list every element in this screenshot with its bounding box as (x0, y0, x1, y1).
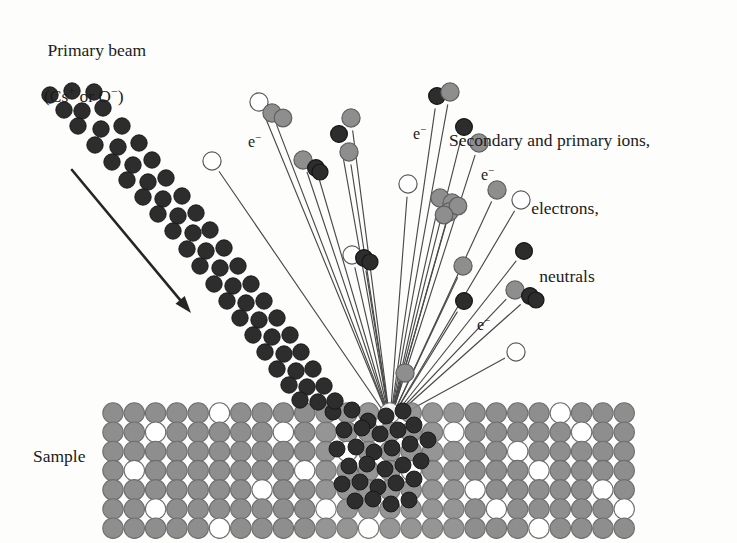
lattice-atom (593, 518, 613, 538)
implanted-beam-particle (402, 436, 418, 452)
o-charge-superscript: − (111, 84, 118, 98)
primary-beam-particle (188, 205, 204, 221)
lattice-atom (167, 518, 187, 538)
figure-canvas: Primary beam (Cs+ or O−) Secondary and p… (0, 0, 737, 543)
lattice-vacancy (273, 422, 293, 442)
lattice-atom (444, 403, 464, 423)
ejection-ray (366, 271, 390, 421)
ejected-primary-ion-particle (312, 164, 328, 180)
primary-beam-arrow-group (72, 170, 191, 313)
primary-beam-particle (206, 276, 222, 292)
primary-beam-particle (251, 312, 267, 328)
lattice-atom (273, 499, 293, 519)
lattice-atom (209, 499, 229, 519)
ejected-secondary-ion-particle (274, 109, 292, 127)
lattice-atom (571, 460, 591, 480)
lattice-vacancy (209, 403, 229, 423)
primary-beam-particle (158, 170, 174, 186)
electron-label-3: e− (481, 164, 494, 184)
lattice-atom (231, 403, 251, 423)
primary-beam-particle (243, 276, 259, 292)
lattice-atom (614, 422, 634, 442)
lattice-vacancy (145, 499, 165, 519)
lattice-atom (508, 460, 528, 480)
lattice-atom (273, 460, 293, 480)
implanted-beam-particle (329, 441, 345, 457)
lattice-atom (295, 518, 315, 538)
lattice-vacancy (550, 403, 570, 423)
primary-beam-particle (225, 278, 241, 294)
lattice-atom (508, 403, 528, 423)
lattice-atom (124, 403, 144, 423)
primary-beam-particle (293, 344, 309, 360)
implanted-beam-particle (347, 493, 363, 509)
primary-beam-particle (170, 208, 186, 224)
implanted-beam-particle (384, 440, 400, 456)
lattice-atom (252, 499, 272, 519)
primary-beam-particle (276, 346, 292, 362)
lattice-vacancy (529, 518, 549, 538)
electron-label-2: e− (413, 123, 426, 143)
lattice-vacancy (571, 422, 591, 442)
lattice-atom (103, 499, 123, 519)
lattice-atom (124, 422, 144, 442)
lattice-vacancy (124, 460, 144, 480)
lattice-atom (465, 518, 485, 538)
primary-beam-particle (316, 378, 332, 394)
lattice-atom (486, 480, 506, 500)
lattice-atom (614, 460, 634, 480)
electron-label-1: e− (248, 131, 261, 151)
lattice-atom (593, 499, 613, 519)
lattice-vacancy (465, 480, 485, 500)
lattice-atom (316, 460, 336, 480)
primary-beam-particle (150, 206, 166, 222)
lattice-atom (188, 460, 208, 480)
lattice-atom (444, 441, 464, 461)
primary-beam-particle (125, 157, 141, 173)
lattice-atom (273, 441, 293, 461)
implanted-beam-particle (344, 402, 360, 418)
primary-beam-particle (257, 344, 273, 360)
lattice-atom (145, 460, 165, 480)
lattice-atom (252, 403, 272, 423)
implanted-beam-particle (336, 422, 352, 438)
lattice-atom (103, 422, 123, 442)
primary-beam-particle (305, 361, 321, 377)
lattice-atom (508, 499, 528, 519)
lattice-atom (550, 441, 570, 461)
lattice-atom (550, 460, 570, 480)
lattice-atom (188, 403, 208, 423)
lattice-atom (103, 441, 123, 461)
lattice-atom (422, 499, 442, 519)
implanted-beam-particle (383, 496, 399, 512)
implanted-beam-particle (401, 492, 417, 508)
lattice-atom (124, 499, 144, 519)
ejected-primary-ion-particle (331, 126, 348, 143)
ejection-ray (353, 131, 390, 421)
primary-beam-particle (219, 293, 235, 309)
lattice-atom (444, 480, 464, 500)
lattice-vacancy (444, 422, 464, 442)
implanted-beam-particle (406, 417, 422, 433)
lattice-vacancy (614, 499, 634, 519)
implanted-beam-particle (420, 432, 436, 448)
lattice-atom (614, 518, 634, 538)
lattice-atom (550, 518, 570, 538)
ejected-neutral-particle (399, 175, 417, 193)
ejected-secondary-ion-particle (396, 364, 414, 382)
primary-beam-particle (216, 240, 232, 256)
lattice-atom (486, 518, 506, 538)
primary-beam-label-line2: (Cs+ or O−) (30, 84, 146, 108)
lattice-atom (209, 441, 229, 461)
primary-beam-particle (104, 154, 120, 170)
lattice-atom (209, 480, 229, 500)
lattice-atom (614, 480, 634, 500)
lattice-vacancy (295, 460, 315, 480)
implanted-beam-particle (395, 457, 411, 473)
lattice-atom (167, 441, 187, 461)
implanted-beam-particle (372, 426, 388, 442)
lattice-atom (550, 480, 570, 500)
primary-beam-particle (230, 258, 246, 274)
paren-open: (Cs (44, 86, 68, 106)
lattice-atom (103, 480, 123, 500)
